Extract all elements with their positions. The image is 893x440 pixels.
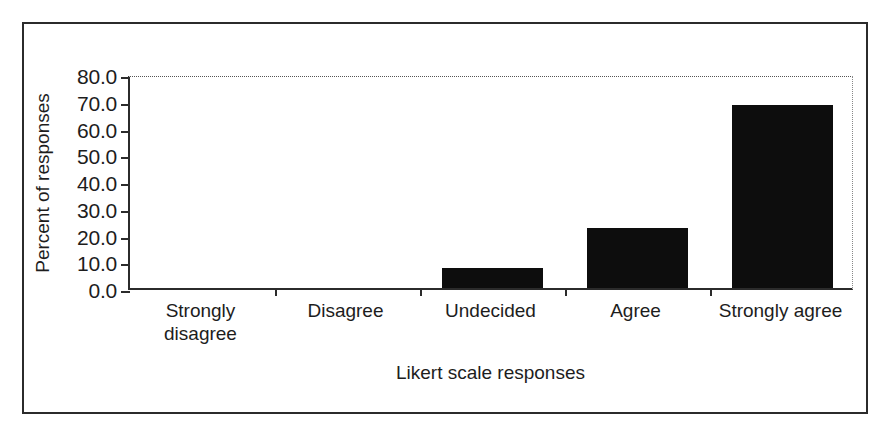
x-axis-title: Likert scale responses bbox=[128, 362, 853, 384]
plot-area: 80.070.060.050.040.030.020.010.00.0 bbox=[128, 76, 853, 290]
y-axis-title: Percent of responses bbox=[32, 0, 58, 76]
x-axis-tick-mark bbox=[710, 288, 712, 296]
bar bbox=[442, 268, 544, 288]
y-axis-tick-mark bbox=[121, 238, 130, 240]
y-axis-tick-mark bbox=[121, 291, 130, 293]
x-axis-category-label: Disagree bbox=[273, 299, 418, 351]
x-axis-tick-mark bbox=[565, 288, 567, 296]
y-axis-tick-label: 30.0 bbox=[77, 199, 117, 223]
y-axis-tick-label: 0.0 bbox=[88, 279, 117, 303]
y-axis-tick-label: 80.0 bbox=[77, 65, 117, 89]
x-axis-category-labels: Strongly disagreeDisagreeUndecidedAgreeS… bbox=[128, 299, 853, 351]
bar-series bbox=[130, 77, 852, 288]
bar bbox=[587, 228, 689, 288]
y-axis-tick-mark bbox=[121, 157, 130, 159]
y-axis-tick-mark bbox=[121, 131, 130, 133]
bar bbox=[732, 105, 834, 288]
y-axis-tick-mark bbox=[121, 211, 130, 213]
y-axis-tick-mark bbox=[121, 184, 130, 186]
y-axis-tick-label: 70.0 bbox=[77, 92, 117, 116]
y-axis-tick-mark bbox=[121, 264, 130, 266]
x-axis-tick-mark bbox=[275, 288, 277, 296]
y-axis-tick-label: 50.0 bbox=[77, 145, 117, 169]
x-axis-category-label: Strongly agree bbox=[708, 299, 853, 351]
y-axis-title-text: Percent of responses bbox=[32, 76, 54, 290]
y-axis-tick-label: 20.0 bbox=[77, 226, 117, 250]
y-axis-tick-label: 40.0 bbox=[77, 172, 117, 196]
x-axis-category-label: Undecided bbox=[418, 299, 563, 351]
y-axis-tick-label: 60.0 bbox=[77, 119, 117, 143]
y-axis-tick-mark bbox=[121, 104, 130, 106]
y-axis-tick-mark bbox=[121, 77, 130, 79]
y-axis-tick-label: 10.0 bbox=[77, 252, 117, 276]
x-axis-category-label: Strongly disagree bbox=[128, 299, 273, 351]
x-axis-tick-mark bbox=[420, 288, 422, 296]
figure: 80.070.060.050.040.030.020.010.00.0 Stro… bbox=[0, 0, 893, 440]
x-axis-category-label: Agree bbox=[563, 299, 708, 351]
